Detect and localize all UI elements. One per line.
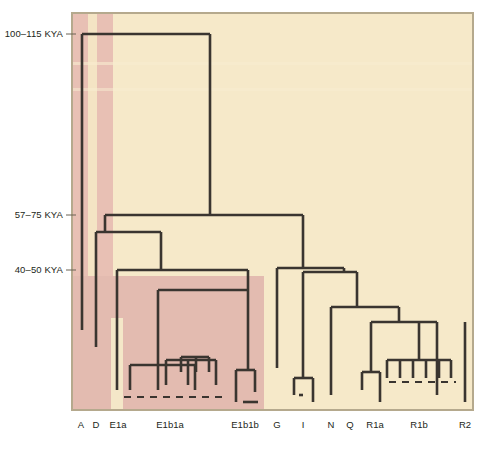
paper-band-1 — [72, 62, 473, 65]
x-axis-label-r1b: R1b — [410, 419, 427, 430]
y-axis-label-100-115: 100–115 KYA — [5, 28, 63, 39]
x-axis-label-r2: R2 — [459, 419, 471, 430]
x-axis-label-a: A — [78, 419, 84, 430]
x-axis-label-e1b1a: E1b1a — [156, 419, 183, 430]
tree-diagram-svg — [0, 0, 486, 451]
y-axis-label-40-50: 40–50 KYA — [15, 264, 63, 275]
x-axis-label-e1b1b: E1b1b — [231, 419, 258, 430]
x-axis-label-r1a: R1a — [366, 419, 383, 430]
x-axis-label-q: Q — [346, 419, 353, 430]
x-axis-label-e1a: E1a — [110, 419, 127, 430]
phylogenetic-tree-figure: 100–115 KYA 57–75 KYA 40–50 KYA A D E1a … — [0, 0, 486, 451]
paper-band-2 — [72, 88, 473, 91]
x-axis-label-n: N — [328, 419, 335, 430]
x-axis-label-i: I — [302, 419, 305, 430]
x-axis-label-d: D — [93, 419, 100, 430]
x-axis-label-g: G — [273, 419, 280, 430]
y-axis-label-57-75: 57–75 KYA — [15, 209, 63, 220]
